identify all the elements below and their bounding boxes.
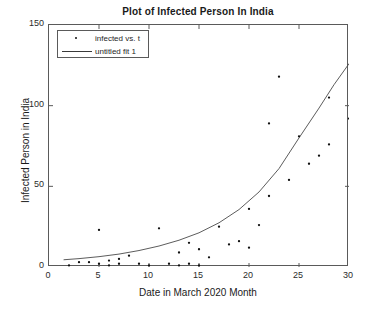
scatter-point <box>258 224 260 226</box>
scatter-point <box>178 251 180 253</box>
scatter-point <box>218 226 220 228</box>
scatter-point <box>88 261 90 263</box>
fit-curve-path <box>64 64 349 260</box>
scatter-point <box>208 256 210 258</box>
scatter-point <box>328 96 330 98</box>
scatter-point <box>308 163 310 165</box>
x-tick-label: 5 <box>83 270 113 280</box>
x-tick-label: 20 <box>233 270 263 280</box>
x-tick-label: 15 <box>183 270 213 280</box>
y-tick-label: 50 <box>14 179 44 189</box>
figure-canvas: Plot of Infected Person In India Infecte… <box>0 0 369 311</box>
legend-entry-fit: untitled fit 1 <box>58 45 148 58</box>
chart-title: Plot of Infected Person In India <box>48 6 348 17</box>
legend-entry-infected: infected vs. t <box>58 32 148 45</box>
scatter-point <box>268 122 270 124</box>
legend-marker-dot-icon <box>60 32 94 45</box>
scatter-point <box>198 264 200 266</box>
scatter-point <box>98 263 100 265</box>
x-tick-label: 10 <box>133 270 163 280</box>
x-tick-label: 30 <box>333 270 363 280</box>
scatter-point <box>238 240 240 242</box>
scatter-point <box>188 263 190 265</box>
scatter-point <box>198 248 200 250</box>
chart-legend[interactable]: infected vs. t untitled fit 1 <box>57 30 149 58</box>
scatter-point <box>278 75 280 77</box>
scatter-point <box>248 246 250 248</box>
x-axis-tick-labels: 051015202530 <box>0 270 369 284</box>
scatter-point <box>178 264 180 266</box>
scatter-point <box>328 143 330 145</box>
scatter-point <box>108 259 110 261</box>
scatter-point <box>268 195 270 197</box>
scatter-point <box>298 135 300 137</box>
plot-svg <box>49 25 349 267</box>
y-axis-tick-labels: 050100150 <box>10 0 44 311</box>
legend-label-fit: untitled fit 1 <box>95 46 136 57</box>
scatter-point <box>348 117 349 119</box>
scatter-point <box>158 227 160 229</box>
scatter-point <box>108 264 110 266</box>
scatter-points-infected-vs-t <box>68 75 349 266</box>
y-tick-label: 0 <box>14 260 44 270</box>
legend-marker-line-icon <box>60 45 94 58</box>
scatter-point <box>118 263 120 265</box>
scatter-point <box>318 155 320 157</box>
scatter-point <box>148 264 150 266</box>
fit-curve-untitled-fit-1 <box>64 64 349 260</box>
scatter-point <box>188 242 190 244</box>
scatter-point <box>128 255 130 257</box>
scatter-point <box>168 263 170 265</box>
scatter-point <box>78 261 80 263</box>
axis-ticks <box>49 25 349 267</box>
x-tick-label: 0 <box>33 270 63 280</box>
plot-area <box>48 24 348 266</box>
scatter-point <box>248 208 250 210</box>
scatter-point <box>288 179 290 181</box>
scatter-point <box>118 258 120 260</box>
x-tick-label: 25 <box>283 270 313 280</box>
scatter-point <box>98 229 100 231</box>
y-tick-label: 100 <box>14 99 44 109</box>
scatter-point <box>228 243 230 245</box>
y-tick-label: 150 <box>14 18 44 28</box>
legend-label-infected: infected vs. t <box>95 33 140 44</box>
x-axis-label: Date in March 2020 Month <box>48 287 348 298</box>
scatter-point <box>68 264 70 266</box>
scatter-point <box>138 263 140 265</box>
